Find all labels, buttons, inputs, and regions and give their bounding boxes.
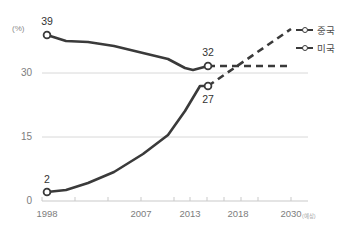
- marker-china-2018: [205, 63, 212, 70]
- y-tick-label-0: 0: [10, 195, 32, 206]
- legend-label-china: 중국: [317, 23, 335, 37]
- x-tick-label-2018: 2018: [218, 208, 258, 219]
- chart-legend: 중국 미국: [296, 24, 335, 53]
- series-line-usa-solid: [47, 86, 208, 192]
- legend-marker-icon: [296, 43, 313, 52]
- data-label-usa-2018: 27: [195, 93, 221, 105]
- series-line-china-solid: [47, 35, 208, 70]
- y-tick-label-15: 15: [10, 131, 32, 142]
- data-label-china-start: 39: [34, 15, 60, 27]
- data-label-china-2018: 32: [195, 46, 221, 58]
- x-axis-unit-note: (예상): [302, 212, 316, 220]
- data-point-markers: [44, 32, 212, 196]
- legend-item-usa[interactable]: 미국: [296, 42, 335, 53]
- data-label-usa-start: 2: [34, 173, 60, 185]
- x-tick-label-2013: 2013: [170, 208, 210, 219]
- marker-usa-2018: [205, 83, 212, 90]
- legend-item-china[interactable]: 중국: [296, 24, 335, 35]
- y-axis-unit: (%): [12, 24, 24, 33]
- legend-marker-icon: [296, 25, 313, 34]
- x-tick-label-2007: 2007: [121, 208, 161, 219]
- legend-label-usa: 미국: [317, 41, 335, 55]
- line-chart: (%) 30 15 0 1998 2007 2013 2018 2030 (예상…: [0, 0, 355, 236]
- x-tick-label-1998: 1998: [27, 208, 67, 219]
- marker-usa-1998: [44, 189, 51, 196]
- y-tick-label-30: 30: [10, 67, 32, 78]
- gridlines: [42, 73, 308, 137]
- marker-china-1998: [44, 32, 51, 39]
